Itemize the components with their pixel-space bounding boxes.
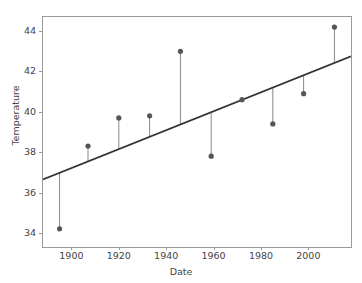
stem-lines-group — [60, 27, 335, 229]
y-tick-label: 36 — [6, 188, 36, 198]
y-tick-label: 44 — [6, 26, 36, 36]
x-tick-label: 1920 — [99, 251, 139, 261]
y-tick-label: 40 — [6, 107, 36, 117]
plot-area — [42, 16, 352, 248]
x-tick-label: 2000 — [288, 251, 328, 261]
x-tick-label: 1940 — [146, 251, 186, 261]
data-point-marker — [116, 115, 121, 120]
y-tick-label: 38 — [6, 147, 36, 157]
x-tick-label: 1960 — [194, 251, 234, 261]
figure-canvas: Temperature Date 34 36 38 40 42 44 1900 … — [0, 0, 362, 283]
plot-svg — [43, 17, 351, 247]
data-point-marker — [85, 144, 90, 149]
data-point-markers-group — [57, 24, 337, 231]
data-point-marker — [57, 226, 62, 231]
data-point-marker — [147, 113, 152, 118]
x-tick-label: 1980 — [241, 251, 281, 261]
data-point-marker — [239, 97, 244, 102]
data-point-marker — [332, 24, 337, 29]
y-tick-label: 42 — [6, 66, 36, 76]
trend-line — [43, 56, 351, 179]
x-tick-label: 1900 — [51, 251, 91, 261]
x-axis-label: Date — [0, 266, 362, 277]
data-point-marker — [209, 154, 214, 159]
data-point-marker — [301, 91, 306, 96]
trend-line-group — [43, 56, 351, 179]
y-tick-label: 34 — [6, 228, 36, 238]
data-point-marker — [178, 49, 183, 54]
data-point-marker — [270, 121, 275, 126]
